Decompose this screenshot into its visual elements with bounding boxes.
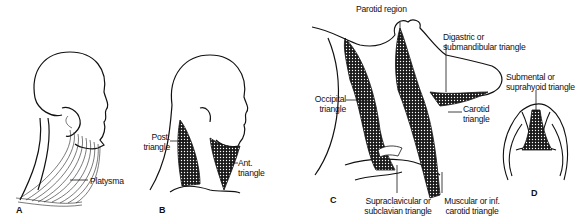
label-ant-triangle: Ant. triangle bbox=[238, 158, 265, 178]
label-parotid-region: Parotid region bbox=[356, 4, 407, 14]
label-submental-triangle: Submental or suprahyoid triangle bbox=[506, 72, 575, 92]
post-triangle-shading bbox=[178, 120, 200, 186]
submental-shading bbox=[522, 110, 552, 150]
label-digastric-triangle: Digastric or submandibular triangle bbox=[443, 32, 526, 52]
ant-triangle-shading bbox=[210, 138, 240, 190]
label-supraclavicular-triangle: Supraclavicular or subclavian triangle bbox=[353, 196, 443, 216]
panel-label-a: A bbox=[16, 205, 23, 215]
label-carotid-triangle: Carotid triangle bbox=[463, 104, 490, 124]
panel-label-c: C bbox=[330, 195, 337, 205]
label-occipital-triangle: Occipital triangle bbox=[306, 94, 346, 114]
platysma-fibers bbox=[16, 116, 100, 206]
panel-label-b: B bbox=[159, 205, 166, 215]
label-muscular-triangle: Muscular or inf. carotid triangle bbox=[434, 196, 510, 216]
panel-label-d: D bbox=[531, 188, 538, 198]
scm-adjacent-shading bbox=[396, 28, 440, 198]
label-post-triangle: Post. triangle bbox=[136, 132, 170, 152]
label-platysma: Platysma bbox=[90, 176, 124, 186]
